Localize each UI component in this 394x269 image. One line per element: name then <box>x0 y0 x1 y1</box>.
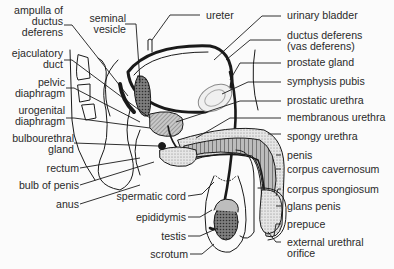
label-line: vesicle <box>89 24 126 35</box>
label-line: duct <box>12 59 63 70</box>
label-anus: anus <box>56 199 79 210</box>
label-prostatic-urethra: prostatic urethra <box>287 95 364 106</box>
label-line: symphysis pubis <box>287 76 365 87</box>
label-line: prostatic urethra <box>287 95 364 106</box>
label-symphysis-pubis: symphysis pubis <box>287 76 365 87</box>
label-penis: penis <box>287 150 312 161</box>
label-urinary-bladder: urinary bladder <box>287 10 358 21</box>
label-line: deferens <box>14 27 63 38</box>
label-ureter: ureter <box>206 10 234 21</box>
label-prostate-gland: prostate gland <box>287 57 354 68</box>
label-scrotum: scrotum <box>150 249 188 260</box>
label-line: diaphragm <box>15 116 65 127</box>
label-bulb-of-penis: bulb of penis <box>19 180 79 191</box>
epididymis-drawing <box>214 199 238 212</box>
spermatic-cord-drawing <box>216 176 236 181</box>
label-line: ureter <box>206 10 234 21</box>
label-line: testis <box>161 231 186 242</box>
label-line: spongy urethra <box>287 131 358 142</box>
label-testis: testis <box>161 231 186 242</box>
label-line: scrotum <box>150 249 188 260</box>
label-spermatic-cord: spermatic cord <box>117 191 186 202</box>
label-line: corpus spongiosum <box>287 184 379 195</box>
label-ductus-deferens: ductus deferens (vas deferens) <box>287 30 362 52</box>
prostate-gland-drawing <box>150 112 183 137</box>
ureter-drawing <box>148 39 152 52</box>
label-epididymis: epididymis <box>136 212 186 223</box>
label-ampulla-of-ductus-deferens: ampulla of ductus deferens <box>14 5 63 38</box>
label-external-urethral-orifice: external urethral orifice <box>287 237 364 259</box>
label-line: spermatic cord <box>117 191 186 202</box>
label-urogenital-diaphragm: urogenital diaphragm <box>15 105 65 127</box>
label-line: bulb of penis <box>19 180 79 191</box>
label-line: epididymis <box>136 212 186 223</box>
label-line: urinary bladder <box>287 10 358 21</box>
label-spongy-urethra: spongy urethra <box>287 131 358 142</box>
label-line: orifice <box>287 248 364 259</box>
label-corpus-spongiosum: corpus spongiosum <box>287 184 379 195</box>
label-line: corpus cavernosum <box>287 164 379 175</box>
label-glans-penis: glans penis <box>287 201 341 212</box>
seminal-vesicle-drawing <box>134 76 150 116</box>
label-line: gland <box>12 144 74 155</box>
label-line: prepuce <box>287 219 325 230</box>
sacrum <box>70 50 110 180</box>
label-bulbourethral-gland: bulbourethral gland <box>12 133 74 155</box>
label-line: membranous urethra <box>287 112 385 123</box>
label-line: diaphragm <box>15 88 65 99</box>
bulb-of-penis-drawing <box>160 147 197 166</box>
label-line: prostate gland <box>287 57 354 68</box>
label-line: rectum <box>47 163 79 174</box>
label-prepuce: prepuce <box>287 219 325 230</box>
label-line: penis <box>287 150 312 161</box>
label-corpus-cavernosum: corpus cavernosum <box>287 164 379 175</box>
label-seminal-vesicle: seminal vesicle <box>89 13 126 35</box>
label-line: (vas deferens) <box>287 41 362 52</box>
label-line: anus <box>56 199 79 210</box>
label-line: glans penis <box>287 201 341 212</box>
label-pelvic-diaphragm: pelvic diaphragm <box>15 77 65 99</box>
label-rectum: rectum <box>47 163 79 174</box>
glans-penis-drawing <box>260 190 282 234</box>
label-ejaculatory-duct: ejaculatory duct <box>12 48 63 70</box>
label-membranous-urethra: membranous urethra <box>287 112 385 123</box>
